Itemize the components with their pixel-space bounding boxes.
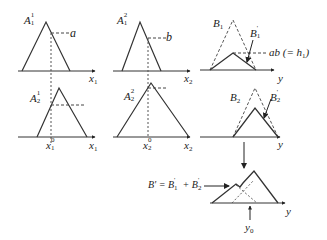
label-a21: A12: [30, 93, 43, 104]
label-b1: B1: [213, 18, 223, 31]
label-x2-input: x02: [143, 140, 154, 151]
label-b2: B2: [230, 92, 240, 105]
membership-triangle-a11: [22, 22, 70, 71]
label-y0-output: y0: [245, 222, 253, 235]
label-a12: A21: [117, 15, 130, 26]
panel-b1: [200, 20, 274, 70]
label-y-axis-b1: y: [278, 73, 283, 84]
label-b1-prime: B'1: [250, 28, 263, 39]
fuzzy-inference-diagram: [0, 0, 327, 240]
panel-a12: [113, 22, 190, 71]
label-y-axis-aggregate: y: [286, 206, 291, 217]
aggregate-output-shape: [212, 171, 278, 203]
membership-triangle-a21: [37, 88, 87, 137]
label-b2-prime: B'2: [270, 92, 283, 103]
label-x1-axis-lower: x1: [89, 140, 97, 153]
label-y-axis-b2: y: [278, 139, 283, 150]
label-a22: A22: [124, 91, 137, 102]
panel-aggregate: [204, 171, 285, 220]
panel-a11: [18, 22, 95, 71]
label-x1-input: x01: [46, 140, 57, 151]
label-x2-axis: x2: [184, 73, 192, 86]
membership-triangle-a12: [122, 22, 161, 71]
label-level-h1: ab (= h1): [269, 47, 309, 60]
label-a11: A11: [24, 15, 37, 26]
label-x1-axis: x1: [89, 73, 97, 86]
label-level-a: a: [70, 27, 76, 39]
label-level-b: b: [166, 31, 172, 43]
label-x2-axis-lower: x2: [184, 140, 192, 153]
b1-prime-pointer-arrow: [247, 40, 253, 62]
label-aggregate-equation: B' = B'1 + B'2: [148, 180, 204, 190]
